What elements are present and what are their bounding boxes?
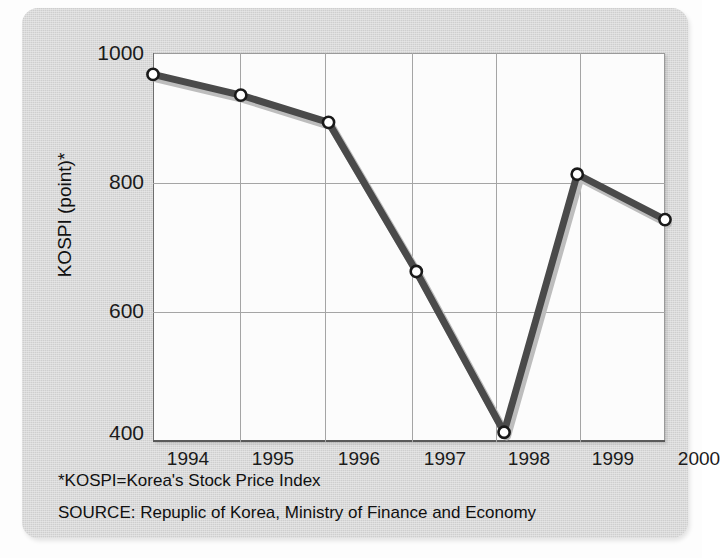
- data-point-5: [572, 169, 583, 180]
- x-axis-tick-label-1998: 1998: [486, 448, 572, 470]
- data-point-6: [659, 214, 670, 225]
- data-point-2: [323, 117, 334, 128]
- y-axis-tick-label-800: 800: [82, 170, 144, 194]
- y-axis-tick-label-1000: 1000: [82, 41, 144, 65]
- x-axis-tick-label-1997: 1997: [402, 448, 488, 470]
- chart-footnote: *KOSPI=Korea's Stock Price Index: [58, 471, 321, 491]
- y-axis-tick-label-400: 400: [82, 421, 144, 445]
- plot-area: [153, 53, 665, 442]
- x-axis-tick-label-1995: 1995: [230, 448, 316, 470]
- data-point-1: [235, 90, 246, 101]
- data-point-4: [498, 427, 509, 438]
- x-axis-tick-label-1999: 1999: [570, 448, 656, 470]
- series-line: [153, 74, 665, 432]
- chart-panel: KOSPI (point)* 1000 800 600 400 1994 199…: [22, 8, 688, 538]
- x-axis-tick-label-2000: 2000: [656, 448, 724, 470]
- data-point-0: [147, 69, 158, 80]
- data-point-3: [411, 266, 422, 277]
- x-axis-tick-label-1994: 1994: [145, 448, 231, 470]
- y-axis-tick-label-600: 600: [82, 299, 144, 323]
- data-series-kospi: [153, 53, 665, 442]
- chart-source-note: SOURCE: Repuplic of Korea, Ministry of F…: [58, 503, 536, 523]
- x-axis-tick-label-1996: 1996: [316, 448, 402, 470]
- y-axis-title: KOSPI (point)*: [54, 110, 76, 320]
